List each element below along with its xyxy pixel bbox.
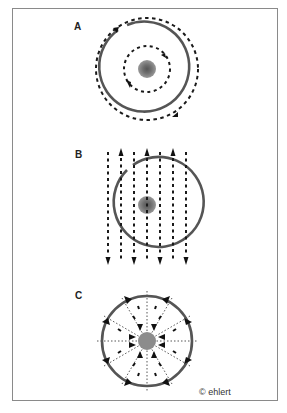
arrow-icon <box>126 80 131 88</box>
center-charge-icon <box>138 332 156 350</box>
panel-c <box>97 291 197 391</box>
conductor-ring <box>114 157 204 247</box>
diagram-canvas <box>0 0 287 413</box>
center-charge-icon <box>138 60 156 78</box>
panel-b <box>106 148 204 265</box>
arrow-icon <box>161 53 166 58</box>
panel-a <box>96 18 198 120</box>
